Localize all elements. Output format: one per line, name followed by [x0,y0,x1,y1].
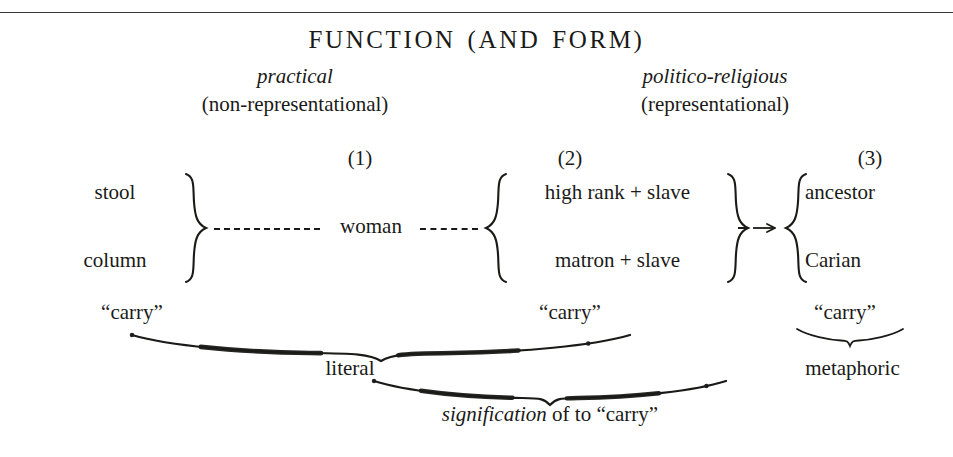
brace-label-literal: literal [250,356,450,381]
column-heading-practical: practical (non-representational) [60,62,530,118]
signification-rest-text: of to “carry” [547,402,658,426]
top-horizontal-rule [0,12,953,13]
carry-label-3: “carry” [765,300,925,325]
term-high-rank-slave: high rank + slave [505,180,730,204]
column-emphasis-politico-religious: politico-religious [480,62,950,90]
signification-italic-word: signification [442,402,547,426]
term-ancestor: ancestor [805,180,945,204]
horizontal-brace-metaphoric [795,326,905,348]
term-stool: stool [50,180,180,204]
term-column: column [50,248,180,272]
column-qualifier-non-representational: (non-representational) [60,90,530,118]
column-emphasis-practical: practical [60,62,530,90]
brace-closing-group-1 [183,172,209,284]
dashed-connector-left [214,228,320,230]
column-qualifier-representational: (representational) [480,90,950,118]
term-matron-slave: matron + slave [505,248,730,272]
group-marker-2: (2) [540,146,600,171]
connector-label-woman: woman [325,214,417,238]
group-marker-1: (1) [330,146,390,171]
brace-opening-group-2 [483,172,509,284]
brace-label-metaphoric: metaphoric [760,356,945,381]
brace-opening-group-3 [783,172,809,284]
term-carian: Carian [805,248,945,272]
dashed-connector-right [420,228,478,230]
dashed-arrow-icon [737,214,781,242]
diagram-title: FUNCTION (AND FORM) [0,26,953,54]
carry-label-2: “carry” [490,300,650,325]
carry-label-1: “carry” [52,300,212,325]
brace-label-signification: signification of to “carry” [340,402,760,427]
column-heading-politico-religious: politico-religious (representational) [480,62,950,118]
group-marker-3: (3) [840,146,900,171]
